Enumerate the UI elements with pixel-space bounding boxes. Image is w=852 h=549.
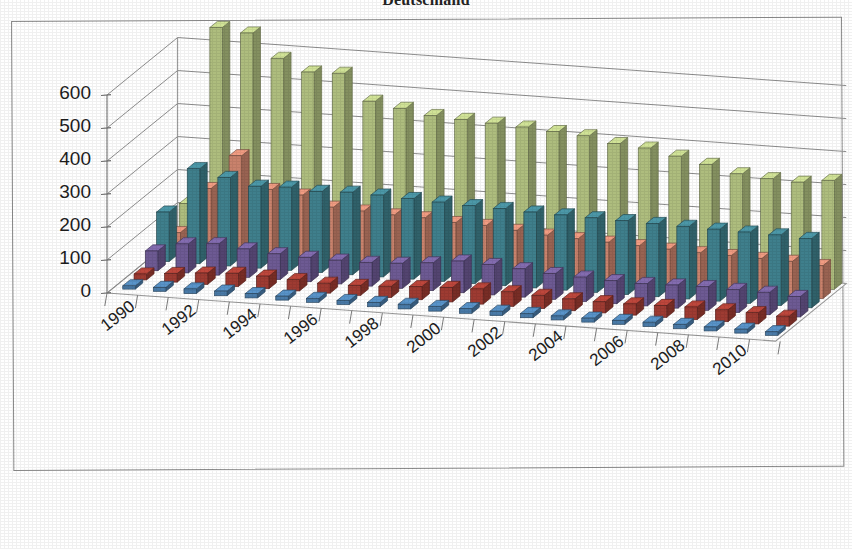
chart-svg	[0, 0, 852, 549]
y-axis-tick-label: 400	[29, 148, 91, 170]
y-axis-tick-label: 200	[29, 214, 91, 236]
y-axis-tick-label: 600	[29, 82, 91, 104]
y-axis-tick-label: 0	[29, 280, 91, 302]
y-axis-tick-label: 300	[29, 181, 91, 203]
y-axis-tick-label: 500	[29, 115, 91, 137]
chart-plot-area: 6005004003002001000199019921994199619982…	[0, 0, 852, 549]
y-axis-tick-label: 100	[29, 247, 91, 269]
